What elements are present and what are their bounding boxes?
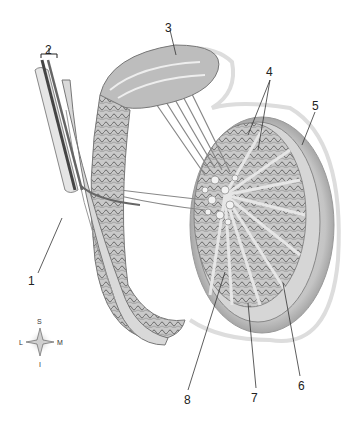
label-8: 8: [184, 394, 191, 406]
orientation-compass: [26, 328, 54, 356]
label-7: 7: [251, 392, 258, 404]
compass-medial: M: [57, 339, 63, 346]
label-4: 4: [266, 66, 273, 78]
label-6: 6: [298, 380, 305, 392]
label-3: 3: [165, 22, 172, 34]
epididymis-body: [91, 95, 185, 340]
epididymis-head: [100, 45, 219, 108]
compass-superior: S: [37, 318, 42, 325]
anatomy-diagram: 1 2 3 4 5 6 7 8 S I L M: [0, 0, 351, 426]
label-5: 5: [312, 100, 319, 112]
testis-illustration: [0, 0, 351, 426]
compass-inferior: I: [39, 361, 41, 368]
compass-lateral: L: [19, 339, 23, 346]
label-2: 2: [45, 44, 52, 56]
label-1: 1: [28, 275, 35, 287]
